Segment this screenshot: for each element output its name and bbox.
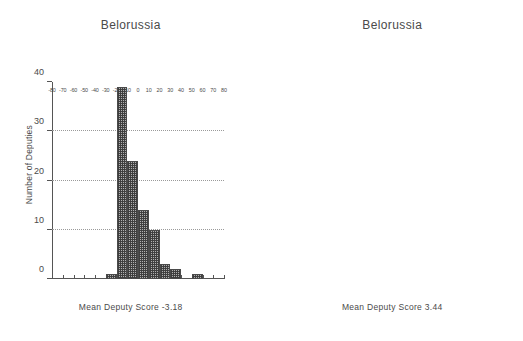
x-tick-label--80: -80 [48,87,56,93]
x-tick-label--30: -30 [102,87,110,93]
x-tick-label--60: -60 [70,87,78,93]
histogram-bar [192,274,203,279]
x-tick-label--40: -40 [91,87,99,93]
chart-title-left: Belorussia [0,18,262,32]
histogram-bar [170,269,181,279]
y-tick-label-30: 30 [34,116,44,126]
x-tick--50 [84,275,85,279]
y-tick-label-40: 40 [34,67,44,77]
x-tick-label-30: 30 [167,87,173,93]
y-tick-label-10: 10 [34,215,44,225]
y-tick-30 [47,130,52,131]
chart-title-right: Belorussia [262,18,523,32]
y-tick-label-0: 0 [39,264,44,274]
figure-panels: Belorussia 010203040-80-70-60-50-40-30-2… [0,0,523,341]
histogram-panel-left: Belorussia 010203040-80-70-60-50-40-30-2… [0,0,262,341]
histogram-bar [106,274,117,279]
x-tick-label-60: 60 [200,87,206,93]
x-tick-40 [181,275,182,279]
gridline-y-30 [52,130,224,131]
x-tick-label-0: 0 [137,87,140,93]
x-axis-title-left: Mean Deputy Score -3.18 [0,302,262,312]
histogram-bar [127,161,138,279]
histogram-panel-right: Belorussia 01020304050-80-70-60-50-40-30… [262,0,523,341]
y-axis-title-left: Number of Deputies [24,125,34,204]
histogram-bar [138,210,149,279]
x-tick-label-20: 20 [157,87,163,93]
gridline-y-20 [52,180,224,181]
y-axis-line-left [52,82,53,279]
x-axis-title-right: Mean Deputy Score 3.44 [262,302,523,312]
histogram-bar [117,87,128,279]
x-tick-60 [203,275,204,279]
x-tick-label--50: -50 [81,87,89,93]
plot-area-left: 010203040-80-70-60-50-40-30-20-100102030… [52,82,224,279]
x-tick-label-70: 70 [210,87,216,93]
x-tick-label-80: 80 [221,87,227,93]
y-tick-10 [47,229,52,230]
x-tick--40 [95,275,96,279]
x-tick-label--70: -70 [59,87,67,93]
histogram-bar [149,230,160,279]
y-tick-20 [47,180,52,181]
histogram-bar [160,264,171,279]
x-tick-label-50: 50 [189,87,195,93]
x-tick-80 [224,275,225,279]
x-tick--70 [63,275,64,279]
y-tick-label-20: 20 [34,166,44,176]
y-tick-40 [47,81,52,82]
x-tick-label-10: 10 [146,87,152,93]
x-tick-label-40: 40 [178,87,184,93]
x-tick--60 [74,275,75,279]
x-tick-70 [213,275,214,279]
x-tick--80 [52,275,53,279]
